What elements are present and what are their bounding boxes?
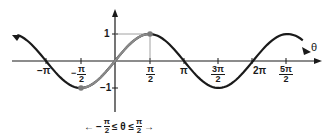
theta-axis-label: θ [311,42,317,53]
domain-annotation: ← − π2 ≤ θ ≤ π2 → [84,118,154,135]
x-tick-label-5pi-half: 5π 2 [279,65,293,84]
point-neg-pi-half [78,85,84,91]
y-axis-arrow-icon [112,9,118,17]
x-tick-label-pi-half: π 2 [146,65,155,84]
x-axis-arrow-icon [314,58,322,64]
curve-left-arrow-icon [12,35,21,41]
x-tick-label-pi: π [180,66,188,76]
x-tick-label-neg-pi: −π [37,66,51,76]
x-tick-label-neg-pi-half: − π 2 [77,65,86,84]
x-tick-label-3pi-half: 3π 2 [211,65,225,84]
y-tick-label-1: 1 [104,29,110,39]
x-tick-label-2pi: 2π [253,66,266,76]
left-arrow-icon: ← [84,121,94,132]
y-tick-label-neg-1: −1 [100,83,111,93]
right-arrow-icon: → [144,121,154,132]
point-pi-half [147,31,153,37]
curve-right-arrow-icon [302,47,311,55]
